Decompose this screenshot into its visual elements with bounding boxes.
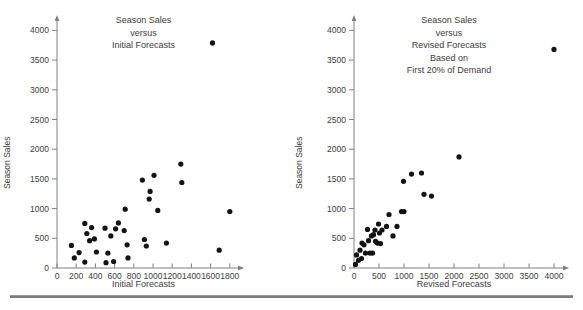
chart-title: Season Sales versus Revised Forecasts Ba… xyxy=(354,14,544,77)
data-point xyxy=(125,242,130,247)
y-axis-label: Season Sales xyxy=(1,95,13,230)
chart-title: Season Sales versus Initial Forecasts xyxy=(57,14,230,52)
y-tick-label: 3000 xyxy=(30,85,49,95)
data-point xyxy=(113,226,118,231)
data-point xyxy=(69,243,74,248)
data-point xyxy=(89,225,94,230)
data-point xyxy=(87,238,92,243)
data-point xyxy=(361,242,366,247)
data-point xyxy=(144,243,149,248)
x-axis-label: Revised Forecasts xyxy=(354,279,554,289)
data-point xyxy=(151,173,156,178)
data-point xyxy=(401,209,406,214)
y-tick-label: 1000 xyxy=(327,204,346,214)
data-point xyxy=(82,221,87,226)
data-point xyxy=(371,232,376,237)
data-point xyxy=(386,212,391,217)
data-point xyxy=(122,228,127,233)
data-point xyxy=(179,180,184,185)
data-point xyxy=(108,233,113,238)
data-point xyxy=(384,224,389,229)
data-point xyxy=(123,207,128,212)
data-point xyxy=(379,227,384,232)
y-tick-label: 2000 xyxy=(30,144,49,154)
data-point xyxy=(94,249,99,254)
y-tick-label: 3500 xyxy=(327,55,346,65)
data-point xyxy=(155,208,160,213)
y-tick-label: 500 xyxy=(332,233,346,243)
bottom-rule xyxy=(10,295,573,298)
data-point xyxy=(378,241,383,246)
data-point xyxy=(354,252,359,257)
data-point xyxy=(111,259,116,264)
data-point xyxy=(84,231,89,236)
data-point xyxy=(376,221,381,226)
data-point xyxy=(92,236,97,241)
data-point xyxy=(365,227,370,232)
data-point xyxy=(116,220,121,225)
data-point xyxy=(178,162,183,167)
y-tick-label: 0 xyxy=(44,263,49,273)
data-point xyxy=(125,255,130,260)
data-point xyxy=(419,170,424,175)
y-tick-label: 2000 xyxy=(327,144,346,154)
data-point xyxy=(142,237,147,242)
data-point xyxy=(77,250,82,255)
y-tick-label: 1500 xyxy=(30,174,49,184)
data-point xyxy=(164,241,169,246)
data-point xyxy=(363,251,368,256)
x-axis-label: Initial Forecasts xyxy=(57,279,230,289)
data-point xyxy=(370,251,375,256)
data-point xyxy=(551,47,556,52)
chart-initial-forecasts: 0200400600800100012001400160018000500100… xyxy=(0,0,291,296)
data-point xyxy=(103,260,108,265)
data-point xyxy=(456,154,461,159)
y-tick-label: 1000 xyxy=(30,204,49,214)
data-point xyxy=(82,260,87,265)
y-tick-label: 3000 xyxy=(327,85,346,95)
data-point xyxy=(357,248,362,253)
data-point xyxy=(227,209,232,214)
data-point xyxy=(394,224,399,229)
data-point xyxy=(140,178,145,183)
data-point xyxy=(217,248,222,253)
data-point xyxy=(429,194,434,199)
data-point xyxy=(390,233,395,238)
data-point xyxy=(72,255,77,260)
y-tick-label: 500 xyxy=(35,233,49,243)
y-tick-label: 4000 xyxy=(30,25,49,35)
y-tick-label: 2500 xyxy=(30,115,49,125)
data-point xyxy=(102,226,107,231)
y-tick-label: 3500 xyxy=(30,55,49,65)
data-point xyxy=(359,256,364,261)
data-point xyxy=(401,179,406,184)
data-point xyxy=(372,227,377,232)
y-tick-label: 2500 xyxy=(327,115,346,125)
figure-season-sales-vs-forecasts: 0200400600800100012001400160018000500100… xyxy=(0,0,583,310)
y-tick-label: 4000 xyxy=(327,25,346,35)
y-axis-label: Season Sales xyxy=(293,95,305,230)
chart-revised-forecasts: 0500100015002000250030003500400005001000… xyxy=(292,0,583,296)
data-point xyxy=(105,251,110,256)
y-tick-label: 0 xyxy=(341,263,346,273)
data-point xyxy=(366,238,371,243)
x-axis-arrow-icon xyxy=(563,266,569,271)
data-point xyxy=(409,172,414,177)
data-point xyxy=(148,189,153,194)
data-point xyxy=(147,197,152,202)
data-point xyxy=(421,192,426,197)
y-tick-label: 1500 xyxy=(327,174,346,184)
